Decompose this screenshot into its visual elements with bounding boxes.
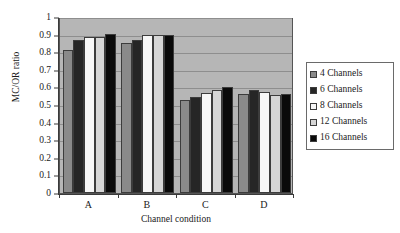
legend-item[interactable]: 12 Channels (310, 114, 390, 130)
x-axis-tick-label: C (202, 199, 209, 210)
bar (132, 40, 143, 193)
x-axis-tick-mark (293, 194, 294, 198)
legend-swatch-icon (310, 103, 317, 110)
legend-swatch-icon (310, 71, 317, 78)
legend-swatch-icon (310, 135, 317, 142)
bar (164, 35, 175, 193)
plot-area (59, 18, 293, 194)
y-axis-tick-label: 0.9 (39, 31, 51, 41)
bar (153, 35, 164, 193)
x-axis-tick-label: B (143, 199, 150, 210)
bar (84, 37, 95, 193)
y-axis-tick-label: 0.4 (39, 119, 51, 129)
y-axis-tick-label: 0.1 (39, 172, 51, 182)
legend-label: 16 Channels (320, 133, 367, 143)
y-axis-tick-label: 0.3 (39, 136, 51, 146)
y-axis-tick-label: 0.5 (39, 101, 51, 111)
bar-chart: MC/OR ratio 00.10.20.30.40.50.60.70.80.9… (0, 0, 400, 233)
y-axis-tick-label: 0.8 (39, 48, 51, 58)
x-axis-tick-mark (118, 194, 119, 198)
x-axis-tick-label: D (260, 199, 267, 210)
bar (121, 43, 132, 193)
y-axis-tick-label: 0.7 (39, 66, 51, 76)
x-axis-tick-label: A (85, 199, 92, 210)
gridline (60, 18, 292, 19)
x-axis-tick-mark (235, 194, 236, 198)
x-axis-title: Channel condition (59, 214, 293, 224)
y-axis-tick-label: 1 (46, 13, 51, 23)
legend-item[interactable]: 6 Channels (310, 82, 390, 98)
bar (222, 87, 233, 193)
legend-swatch-icon (310, 119, 317, 126)
bar (259, 92, 270, 193)
legend: 4 Channels6 Channels8 Channels12 Channel… (306, 62, 394, 150)
bar (270, 95, 281, 193)
x-axis-tick-mark (176, 194, 177, 198)
bar (201, 93, 212, 193)
bar (249, 90, 260, 193)
y-axis-tick-label: 0 (46, 189, 51, 199)
y-axis-tick-label: 0.2 (39, 154, 51, 164)
bar (180, 100, 191, 193)
bar (238, 94, 249, 193)
y-axis-tick-labels: 00.10.20.30.40.50.60.70.80.91 (0, 18, 59, 194)
legend-label: 6 Channels (320, 85, 362, 95)
legend-label: 12 Channels (320, 117, 367, 127)
legend-swatch-icon (310, 87, 317, 94)
bar (63, 50, 74, 193)
bar (142, 35, 153, 193)
legend-item[interactable]: 4 Channels (310, 66, 390, 82)
legend-item[interactable]: 16 Channels (310, 130, 390, 146)
bar (105, 34, 116, 193)
bar (95, 37, 106, 193)
y-axis-tick-label: 0.6 (39, 84, 51, 94)
legend-item[interactable]: 8 Channels (310, 98, 390, 114)
legend-label: 4 Channels (320, 69, 362, 79)
bar (73, 40, 84, 193)
legend-label: 8 Channels (320, 101, 362, 111)
bar (281, 94, 292, 193)
bar (190, 97, 201, 193)
x-axis-tick-mark (59, 194, 60, 198)
bar (212, 90, 223, 193)
